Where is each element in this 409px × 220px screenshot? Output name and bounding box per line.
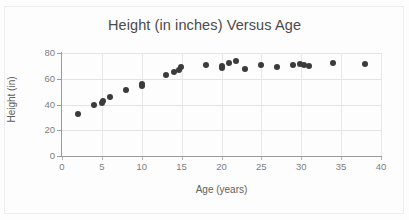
gridline-vertical: [341, 53, 342, 156]
x-tick-label: 20: [207, 161, 237, 172]
x-tick-mark: [182, 157, 183, 160]
x-tick-mark: [62, 157, 63, 160]
y-axis-title: Height (in): [6, 65, 17, 135]
scatter-point: [107, 94, 113, 100]
plot-area: [62, 53, 381, 156]
gridline-vertical: [261, 53, 262, 156]
y-tick-label-group: 020406080: [29, 0, 55, 220]
y-axis-line: [61, 52, 62, 157]
y-tick-mark: [57, 156, 61, 157]
scatter-point: [233, 58, 239, 64]
scatter-point: [306, 63, 312, 69]
x-tick-label: 0: [47, 161, 77, 172]
chart-title: Height (in inches) Versus Age: [0, 17, 409, 33]
y-tick-label: 0: [33, 151, 55, 161]
x-tick-mark: [301, 157, 302, 160]
x-tick-label: 15: [167, 161, 197, 172]
scatter-point: [242, 66, 248, 72]
x-tick-label: 25: [246, 161, 276, 172]
x-tick-mark: [142, 157, 143, 160]
gridline-vertical: [301, 53, 302, 156]
y-tick-label: 20: [33, 125, 55, 135]
y-tick-mark: [57, 105, 61, 106]
scatter-point: [163, 72, 169, 78]
gridline-vertical: [142, 53, 143, 156]
x-tick-label: 40: [366, 161, 396, 172]
y-tick-mark: [57, 53, 61, 54]
scatter-point: [123, 87, 129, 93]
y-tick-label: 40: [33, 100, 55, 110]
x-tick-label: 35: [326, 161, 356, 172]
scatter-point: [91, 102, 97, 108]
scatter-point: [219, 63, 225, 69]
x-tick-label: 5: [87, 161, 117, 172]
scatter-point: [203, 62, 209, 68]
y-tick-mark: [57, 130, 61, 131]
scatter-point: [139, 81, 145, 87]
x-tick-label: 30: [286, 161, 316, 172]
x-tick-label: 10: [127, 161, 157, 172]
y-tick-mark: [57, 79, 61, 80]
x-tick-mark: [102, 157, 103, 160]
scatter-point: [178, 64, 184, 70]
x-tick-mark: [381, 157, 382, 160]
scatter-point: [362, 61, 368, 67]
scatter-point: [258, 62, 264, 68]
x-tick-mark: [261, 157, 262, 160]
scatter-point: [226, 60, 232, 66]
scatter-point: [75, 111, 81, 117]
gridline-vertical: [381, 53, 382, 156]
x-axis-title: Age (years): [62, 184, 381, 195]
scatter-point: [330, 60, 336, 66]
scatter-point: [290, 62, 296, 68]
scatter-chart-figure: Height (in inches) Versus Age 020406080 …: [0, 0, 409, 220]
scatter-point: [274, 64, 280, 70]
y-tick-label: 80: [33, 48, 55, 58]
scatter-point: [100, 98, 106, 104]
x-tick-mark: [222, 157, 223, 160]
y-tick-label: 60: [33, 74, 55, 84]
x-tick-mark: [341, 157, 342, 160]
